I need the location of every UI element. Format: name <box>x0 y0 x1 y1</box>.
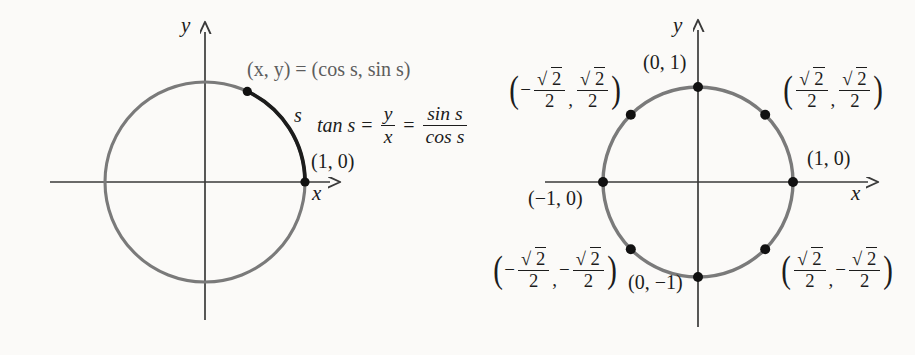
q1-x-radicand: 2 <box>813 67 824 89</box>
q2-y-sqrt: √ 2 <box>577 70 608 89</box>
diagram-canvas <box>0 0 915 355</box>
q4-x-fraction: √ 2 2 <box>794 250 825 291</box>
tan-identity: tan s = y x = sin s cos s <box>317 104 469 147</box>
q4-y-minus: − <box>835 260 847 280</box>
tan-equals-1: = <box>355 115 378 136</box>
right-point-q1 <box>760 110 770 120</box>
q3-y-denominator: 2 <box>581 272 596 291</box>
q2-x-radical-sign: √ <box>537 68 547 89</box>
q1-y-fraction: √ 2 2 <box>839 70 870 111</box>
right-point-q4-label: ( √ 2 2 , − √ 2 2 ) <box>780 250 895 291</box>
right-point-q2 <box>626 110 636 120</box>
q4-y-radical-sign: √ <box>852 248 862 269</box>
q4-x-denominator: 2 <box>802 272 817 291</box>
q1-y-radical-sign: √ <box>842 68 852 89</box>
right-point-neg1-0-label: (−1, 0) <box>528 188 583 209</box>
fraction-y-over-x: y x <box>381 104 396 147</box>
q2-paren-close: ) <box>612 75 622 105</box>
q1-x-sqrt: √ 2 <box>796 70 827 89</box>
q4-x-radical-sign: √ <box>797 248 807 269</box>
q3-y-minus: − <box>559 260 571 280</box>
q1-x-denominator: 2 <box>804 92 819 111</box>
right-point-0-neg1 <box>693 272 703 282</box>
q3-y-sqrt: √ 2 <box>573 250 604 269</box>
q1-y-denominator: 2 <box>847 92 862 111</box>
q2-y-fraction: √ 2 2 <box>577 70 608 111</box>
q3-y-fraction: √ 2 2 <box>573 250 604 291</box>
q4-comma: , <box>828 270 836 291</box>
fraction-y-over-x-numerator: y <box>381 104 396 124</box>
q3-paren-close: ) <box>607 255 617 285</box>
q1-y-radicand: 2 <box>856 67 867 89</box>
right-y-axis-label: y <box>673 14 682 36</box>
right-point-neg1-0 <box>598 177 608 187</box>
q3-x-minus: − <box>504 260 516 280</box>
q3-y-radical-sign: √ <box>576 248 586 269</box>
left-parametric-point-label: (x, y) = (cos s, sin s) <box>247 59 411 80</box>
q4-x-radicand: 2 <box>811 247 822 269</box>
q4-y-fraction: √ 2 2 <box>849 250 880 291</box>
q4-y-sqrt: √ 2 <box>849 250 880 269</box>
q2-x-denominator: 2 <box>542 92 557 111</box>
right-point-q1-label: ( √ 2 2 , √ 2 2 ) <box>782 70 885 111</box>
q4-y-denominator: 2 <box>857 272 872 291</box>
figure-root: y x (x, y) = (cos s, sin s) s (1, 0) tan… <box>0 0 915 355</box>
q3-paren-open: ( <box>493 255 503 285</box>
q1-paren-close: ) <box>874 75 884 105</box>
q2-x-radicand: 2 <box>551 67 562 89</box>
right-point-q3 <box>626 244 636 254</box>
right-point-0-1 <box>693 82 703 92</box>
q1-paren-open: ( <box>783 75 793 105</box>
left-point-on-circle <box>243 87 252 96</box>
right-point-q3-label: ( − √ 2 2 , − √ 2 2 ) <box>492 250 618 291</box>
q2-y-radical-sign: √ <box>580 68 590 89</box>
q3-comma: , <box>551 270 559 291</box>
q1-x-radical-sign: √ <box>799 68 809 89</box>
left-point-1-0-label: (1, 0) <box>311 151 354 172</box>
tan-equals-2: = <box>397 115 420 136</box>
q3-x-denominator: 2 <box>526 272 541 291</box>
right-point-0-neg1-label: (0, −1) <box>628 272 683 293</box>
q2-x-minus: − <box>520 80 532 100</box>
q3-x-radicand: 2 <box>535 247 546 269</box>
left-y-axis-label: y <box>181 14 190 36</box>
right-point-1-0-label: (1, 0) <box>807 148 850 169</box>
q2-comma: , <box>567 90 575 111</box>
left-arc-length-label: s <box>294 105 302 126</box>
q3-x-sqrt: √ 2 <box>518 250 549 269</box>
right-x-axis-label: x <box>851 182 860 204</box>
left-point-1-0 <box>300 177 309 186</box>
q3-y-radicand: 2 <box>590 247 601 269</box>
q2-y-radicand: 2 <box>594 67 605 89</box>
q2-x-sqrt: √ 2 <box>534 70 565 89</box>
q1-comma: , <box>830 90 838 111</box>
q2-paren-open: ( <box>509 75 519 105</box>
q4-y-radicand: 2 <box>866 247 877 269</box>
q1-y-sqrt: √ 2 <box>839 70 870 89</box>
q2-y-denominator: 2 <box>585 92 600 111</box>
fraction-y-over-x-denominator: x <box>381 127 396 147</box>
q4-paren-open: ( <box>781 255 791 285</box>
q3-x-fraction: √ 2 2 <box>518 250 549 291</box>
q4-paren-close: ) <box>884 255 894 285</box>
right-point-q2-label: ( − √ 2 2 , √ 2 2 ) <box>508 70 623 111</box>
q3-x-radical-sign: √ <box>521 248 531 269</box>
right-point-q4 <box>760 244 770 254</box>
q4-x-sqrt: √ 2 <box>794 250 825 269</box>
right-point-0-1-label: (0, 1) <box>643 52 686 73</box>
fraction-sin-over-cos: sin s cos s <box>423 104 468 147</box>
fraction-sin-over-cos-denominator: cos s <box>423 127 468 147</box>
q2-x-fraction: √ 2 2 <box>534 70 565 111</box>
fraction-sin-over-cos-numerator: sin s <box>424 104 465 124</box>
right-point-1-0 <box>788 177 798 187</box>
tan-lhs: tan s <box>317 115 355 136</box>
left-x-axis-label: x <box>312 182 321 204</box>
q1-x-fraction: √ 2 2 <box>796 70 827 111</box>
